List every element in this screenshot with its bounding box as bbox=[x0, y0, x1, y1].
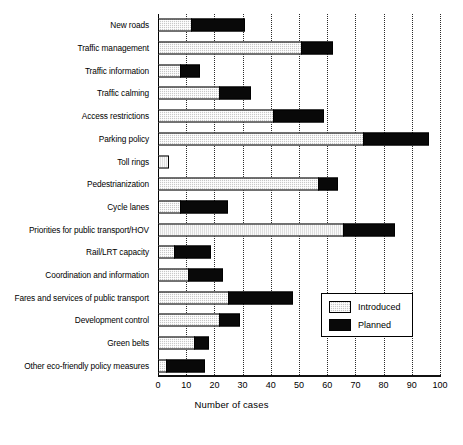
bar-segment-introduced bbox=[158, 110, 274, 123]
bar-segment-introduced bbox=[158, 314, 220, 327]
bar-segment-planned bbox=[174, 246, 212, 259]
y-label-rail-lrt-capacity: Rail/LRT capacity bbox=[86, 248, 149, 257]
y-label-other-eco-friendly: Other eco-friendly policy measures bbox=[24, 361, 149, 370]
table-row bbox=[158, 14, 440, 37]
y-label-traffic-information: Traffic information bbox=[85, 66, 149, 75]
chart-legend: Introduced Planned bbox=[321, 293, 413, 337]
bar-coordination-and-information bbox=[158, 269, 223, 282]
bar-segment-introduced bbox=[158, 87, 220, 100]
bar-new-roads bbox=[158, 19, 245, 32]
y-label-toll-rings: Toll rings bbox=[117, 157, 149, 166]
y-label-new-roads: New roads bbox=[110, 21, 149, 30]
bar-segment-planned bbox=[188, 269, 223, 282]
bar-segment-introduced bbox=[158, 223, 344, 236]
bar-segment-planned bbox=[301, 42, 333, 55]
bar-segment-planned bbox=[363, 132, 429, 145]
bar-priorities-public-transport bbox=[158, 223, 395, 236]
bar-segment-introduced bbox=[158, 269, 189, 282]
bar-segment-introduced bbox=[158, 337, 195, 350]
bar-traffic-information bbox=[158, 64, 200, 77]
bar-segment-planned bbox=[194, 337, 209, 350]
legend-item-planned: Planned bbox=[329, 317, 412, 333]
bar-traffic-calming bbox=[158, 87, 251, 100]
bar-access-restrictions bbox=[158, 110, 324, 123]
table-row bbox=[158, 173, 440, 196]
bar-development-control bbox=[158, 314, 240, 327]
bar-chart: New roads Traffic management Traffic inf… bbox=[0, 0, 463, 445]
x-tick-30: 30 bbox=[238, 380, 248, 391]
bar-segment-introduced bbox=[158, 155, 169, 168]
bar-segment-planned bbox=[228, 291, 293, 304]
bar-segment-introduced bbox=[158, 64, 181, 77]
bar-toll-rings bbox=[158, 155, 169, 168]
y-axis-category-labels: New roads Traffic management Traffic inf… bbox=[0, 14, 155, 377]
table-row bbox=[158, 218, 440, 241]
x-axis-spine bbox=[158, 375, 441, 377]
table-row bbox=[158, 59, 440, 82]
y-label-traffic-calming: Traffic calming bbox=[97, 89, 149, 98]
bar-other-eco-friendly bbox=[158, 359, 205, 372]
bar-green-belts bbox=[158, 337, 209, 350]
x-tick-20: 20 bbox=[209, 380, 219, 391]
y-label-access-restrictions: Access restrictions bbox=[82, 112, 149, 121]
x-tick-10: 10 bbox=[181, 380, 191, 391]
legend-label-planned: Planned bbox=[358, 320, 391, 330]
bar-segment-planned bbox=[166, 359, 206, 372]
bar-segment-planned bbox=[180, 64, 201, 77]
bar-segment-introduced bbox=[158, 200, 181, 213]
table-row bbox=[158, 264, 440, 287]
bar-segment-planned bbox=[318, 178, 339, 191]
y-label-development-control: Development control bbox=[75, 316, 149, 325]
x-tick-100: 100 bbox=[432, 380, 447, 391]
x-tick-90: 90 bbox=[407, 380, 417, 391]
table-row bbox=[158, 37, 440, 60]
bar-segment-introduced bbox=[158, 291, 229, 304]
gridline-100 bbox=[440, 14, 441, 377]
bar-rail-lrt-capacity bbox=[158, 246, 211, 259]
legend-item-introduced: Introduced bbox=[329, 299, 412, 315]
table-row bbox=[158, 355, 440, 378]
x-axis-tick-labels: 0 10 20 30 40 50 60 70 80 90 100 bbox=[158, 380, 441, 394]
y-label-traffic-management: Traffic management bbox=[77, 44, 149, 53]
x-axis-title: Number of cases bbox=[0, 399, 463, 410]
table-row bbox=[158, 196, 440, 219]
x-tick-80: 80 bbox=[379, 380, 389, 391]
y-label-fares-and-services: Fares and services of public transport bbox=[14, 293, 149, 302]
bar-segment-planned bbox=[219, 87, 251, 100]
y-label-priorities-public-transport: Priorities for public transport/HOV bbox=[29, 225, 149, 234]
y-label-cycle-lanes: Cycle lanes bbox=[107, 202, 149, 211]
x-tick-60: 60 bbox=[322, 380, 332, 391]
table-row bbox=[158, 128, 440, 151]
y-label-pedestrianization: Pedestrianization bbox=[87, 180, 149, 189]
x-tick-0: 0 bbox=[155, 380, 160, 391]
legend-swatch-planned-icon bbox=[329, 319, 351, 331]
table-row bbox=[158, 82, 440, 105]
bar-segment-introduced bbox=[158, 178, 319, 191]
bar-segment-introduced bbox=[158, 42, 302, 55]
bar-pedestrianization bbox=[158, 178, 338, 191]
bar-segment-planned bbox=[219, 314, 240, 327]
bar-segment-introduced bbox=[158, 246, 175, 259]
bar-segment-introduced bbox=[158, 132, 364, 145]
table-row bbox=[158, 241, 440, 264]
table-row bbox=[158, 105, 440, 128]
bar-segment-planned bbox=[180, 200, 229, 213]
bar-parking-policy bbox=[158, 132, 429, 145]
bar-traffic-management bbox=[158, 42, 333, 55]
legend-label-introduced: Introduced bbox=[358, 302, 401, 312]
bar-segment-planned bbox=[343, 223, 395, 236]
y-label-green-belts: Green belts bbox=[107, 339, 149, 348]
bar-segment-planned bbox=[273, 110, 325, 123]
x-tick-70: 70 bbox=[350, 380, 360, 391]
legend-swatch-introduced-icon bbox=[329, 301, 351, 313]
bar-segment-planned bbox=[191, 19, 246, 32]
x-tick-40: 40 bbox=[266, 380, 276, 391]
y-label-parking-policy: Parking policy bbox=[99, 134, 149, 143]
table-row bbox=[158, 150, 440, 173]
y-label-coordination-and-information: Coordination and information bbox=[45, 271, 149, 280]
bar-segment-introduced bbox=[158, 19, 192, 32]
bar-cycle-lanes bbox=[158, 200, 228, 213]
bar-fares-and-services bbox=[158, 291, 293, 304]
x-tick-50: 50 bbox=[294, 380, 304, 391]
